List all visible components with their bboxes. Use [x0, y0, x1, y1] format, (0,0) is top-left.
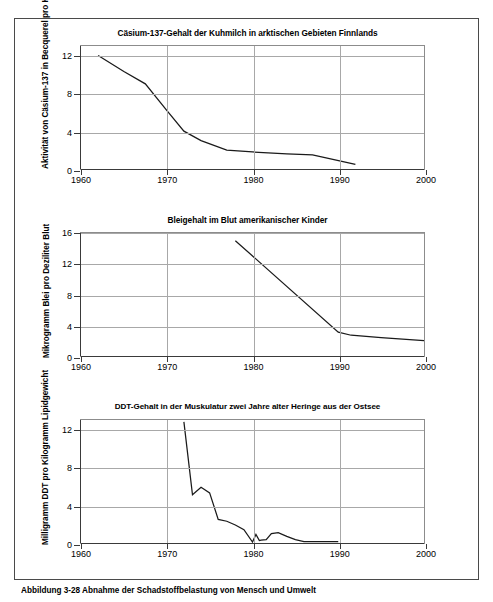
chart-title-cesium: Cäsium-137-Gehalt der Kuhmilch in arktis… [15, 28, 480, 38]
y-axis-title-cesium: Aktivität von Cäsium-137 in Becquerel pr… [41, 49, 51, 169]
chart-title-lead: Bleigehalt im Blut amerikanischer Kinder [15, 215, 480, 225]
y-axis-tick-label: 12 [62, 425, 72, 434]
gridline-vertical [167, 233, 168, 356]
y-axis-tick-label: 4 [67, 128, 72, 137]
series-lead [81, 233, 424, 356]
gridline-vertical [254, 46, 255, 169]
x-axis-tick-label: 1990 [330, 175, 350, 185]
x-axis-line [81, 543, 424, 544]
x-axis-tick-label: 2000 [416, 175, 436, 185]
gridline-horizontal [81, 327, 424, 328]
chart-panel-cesium: Cäsium-137-Gehalt der Kuhmilch in arktis… [15, 19, 480, 206]
y-axis-tick [74, 358, 80, 359]
x-axis-tick-label: 1980 [243, 175, 263, 185]
y-axis-tick [74, 545, 80, 546]
gridline-horizontal [81, 468, 424, 469]
gridline-horizontal [81, 56, 424, 57]
figure-container: Cäsium-137-Gehalt der Kuhmilch in arktis… [0, 0, 493, 602]
y-axis-tick-label: 8 [67, 90, 72, 99]
gridline-vertical [254, 233, 255, 356]
y-axis-tick-label: 8 [67, 291, 72, 300]
y-axis-title-ddt: Milligramm DDT pro Kilogramm Lipidgewich… [41, 425, 51, 545]
x-axis-tick-label: 1990 [330, 362, 350, 372]
x-axis-tick-label: 1970 [157, 362, 177, 372]
chart-title-ddt: DDT-Gehalt in der Muskulatur zwei Jahre … [15, 402, 480, 411]
series-ddt [81, 420, 424, 543]
y-axis-tick-label: 4 [67, 502, 72, 511]
x-axis-tick-label: 1970 [157, 549, 177, 559]
x-axis-line [81, 169, 424, 170]
y-axis-tick-label: 4 [67, 322, 72, 331]
gridline-horizontal [81, 133, 424, 134]
gridline-vertical [254, 420, 255, 543]
y-axis-tick-label: 12 [62, 51, 72, 60]
y-axis-title-lead: Mikrogramm Blei pro Deziliter Blut [42, 240, 52, 358]
x-axis-tick-label: 1990 [330, 549, 350, 559]
gridline-horizontal [81, 94, 424, 95]
y-axis-line [80, 420, 81, 543]
x-axis-tick-label: 1980 [243, 549, 263, 559]
gridline-vertical [340, 46, 341, 169]
x-axis-tick-label: 1960 [71, 362, 91, 372]
x-axis-tick-label: 1970 [157, 175, 177, 185]
gridline-horizontal [81, 430, 424, 431]
gridline-horizontal [81, 264, 424, 265]
gridline-horizontal [81, 233, 424, 234]
series-cesium [81, 46, 424, 169]
y-axis-tick-label: 12 [62, 260, 72, 269]
y-axis-tick-label: 16 [62, 229, 72, 238]
plot-area-cesium: 0481219601970198019902000 [80, 45, 425, 170]
gridline-horizontal [81, 296, 424, 297]
y-axis-tick-label: 8 [67, 464, 72, 473]
x-axis-line [81, 356, 424, 357]
plot-area-lead: 048121619601970198019902000 [80, 232, 425, 357]
x-axis-tick-label: 2000 [416, 549, 436, 559]
gridline-vertical [340, 233, 341, 356]
gridline-vertical [167, 420, 168, 543]
x-axis-tick-label: 2000 [416, 362, 436, 372]
plot-area-ddt: 0481219601970198019902000 [80, 419, 425, 544]
y-axis-tick [74, 171, 80, 172]
x-axis-tick-label: 1960 [71, 549, 91, 559]
x-axis-tick-label: 1980 [243, 362, 263, 372]
gridline-vertical [167, 46, 168, 169]
gridline-horizontal [81, 507, 424, 508]
figure-frame: Cäsium-137-Gehalt der Kuhmilch in arktis… [14, 18, 479, 580]
y-axis-line [80, 46, 81, 169]
gridline-vertical [340, 420, 341, 543]
chart-panel-ddt: DDT-Gehalt in der Muskulatur zwei Jahre … [15, 393, 480, 580]
figure-caption: Abbildung 3-28 Abnahme der Schadstoffbel… [21, 586, 471, 596]
y-axis-line [80, 233, 81, 356]
chart-panel-lead: Bleigehalt im Blut amerikanischer Kinder… [15, 206, 480, 393]
x-axis-tick-label: 1960 [71, 175, 91, 185]
